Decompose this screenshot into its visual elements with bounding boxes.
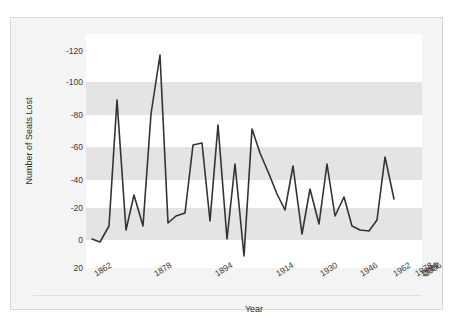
chart-panel: -120-100-80-60-40-20020 Number of Seats …	[10, 17, 443, 310]
y-axis-tick-label: -120	[37, 46, 83, 56]
x-axis-title: Year	[86, 304, 422, 314]
chart-figure: · · · -120-100-80-60-40-20020 Number of …	[0, 0, 453, 318]
seats-lost-polyline	[92, 55, 394, 256]
y-axis-tick-label: -60	[37, 142, 83, 152]
y-axis-tick-label: 20	[37, 263, 83, 273]
cutoff-caption-text: · · ·	[220, 0, 233, 3]
y-axis-tick-label: -20	[37, 203, 83, 213]
y-axis-tick-label: -40	[37, 175, 83, 185]
plot-area	[86, 34, 422, 268]
x-axis-baseline	[33, 295, 422, 296]
cutoff-caption-remnant: · · ·	[0, 0, 453, 7]
y-axis-tick-label: -100	[37, 77, 83, 87]
y-axis-title: Number of Seats Lost	[24, 76, 34, 206]
data-series-line	[86, 34, 422, 268]
y-axis-tick-label: -80	[37, 110, 83, 120]
y-axis-tick-label: 0	[37, 235, 83, 245]
y-axis-tick-labels: -120-100-80-60-40-20020	[31, 34, 83, 268]
